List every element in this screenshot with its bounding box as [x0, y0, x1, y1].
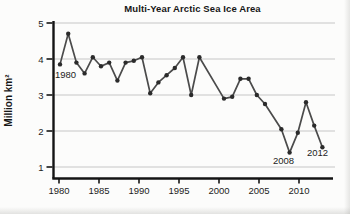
data-point	[304, 100, 308, 104]
y-tick-label: 4	[38, 54, 43, 65]
data-point	[312, 123, 316, 127]
data-point	[238, 77, 242, 81]
scan-artifact-bottom	[0, 207, 350, 214]
data-point	[82, 71, 86, 75]
x-tick-label: 2000	[208, 185, 229, 196]
data-point	[197, 55, 201, 59]
data-point	[222, 96, 226, 100]
x-tick-label: 1980	[48, 185, 69, 196]
chart-canvas: 123451980198519901995200020052010	[0, 0, 350, 214]
data-point	[173, 66, 177, 70]
x-tick-label: 1990	[128, 185, 149, 196]
annotation-1980: 1980	[55, 69, 76, 80]
data-point	[156, 80, 160, 84]
y-tick-label: 1	[38, 162, 43, 173]
data-point	[74, 60, 78, 64]
data-point	[132, 59, 136, 63]
data-point	[99, 64, 103, 68]
data-point	[91, 55, 95, 59]
data-point	[189, 93, 193, 97]
arctic-sea-ice-figure: Multi-Year Arctic Sea Ice Area Million k…	[0, 0, 350, 214]
data-point	[148, 91, 152, 95]
data-point	[140, 55, 144, 59]
data-point	[58, 62, 62, 66]
y-tick-label: 3	[38, 90, 43, 101]
x-tick-label: 1985	[88, 185, 109, 196]
data-point	[279, 127, 283, 131]
annotation-2012: 2012	[307, 147, 328, 158]
x-tick-label: 2005	[248, 185, 269, 196]
data-point	[263, 102, 267, 106]
data-point	[107, 60, 111, 64]
data-point	[246, 77, 250, 81]
data-point	[115, 78, 119, 82]
data-point	[230, 95, 234, 99]
x-tick-label: 2010	[288, 185, 309, 196]
x-tick-label: 1995	[168, 185, 189, 196]
data-point	[181, 55, 185, 59]
data-point	[164, 73, 168, 77]
annotation-2008: 2008	[273, 155, 294, 166]
data-point	[66, 32, 70, 36]
data-point	[296, 131, 300, 135]
data-point	[255, 93, 259, 97]
y-tick-label: 5	[38, 18, 43, 29]
data-point	[123, 60, 127, 64]
scan-artifact-right	[344, 0, 350, 214]
y-tick-label: 2	[38, 126, 43, 137]
